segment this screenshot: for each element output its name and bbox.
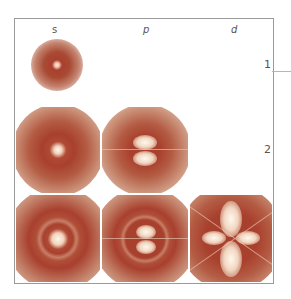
column-label-d: d — [231, 24, 237, 35]
orbital-3d — [190, 195, 272, 282]
column-label-p: p — [143, 24, 149, 35]
row-label-1: 1 — [264, 58, 271, 71]
column-label-s: s — [52, 24, 57, 35]
orbital-2p — [102, 107, 188, 193]
orbital-3p — [102, 195, 188, 282]
orbital-3s — [16, 195, 100, 282]
orbital-2s — [16, 107, 100, 193]
marker-line — [272, 71, 291, 72]
orbital-1s — [31, 39, 83, 91]
row-label-2: 2 — [264, 143, 271, 156]
